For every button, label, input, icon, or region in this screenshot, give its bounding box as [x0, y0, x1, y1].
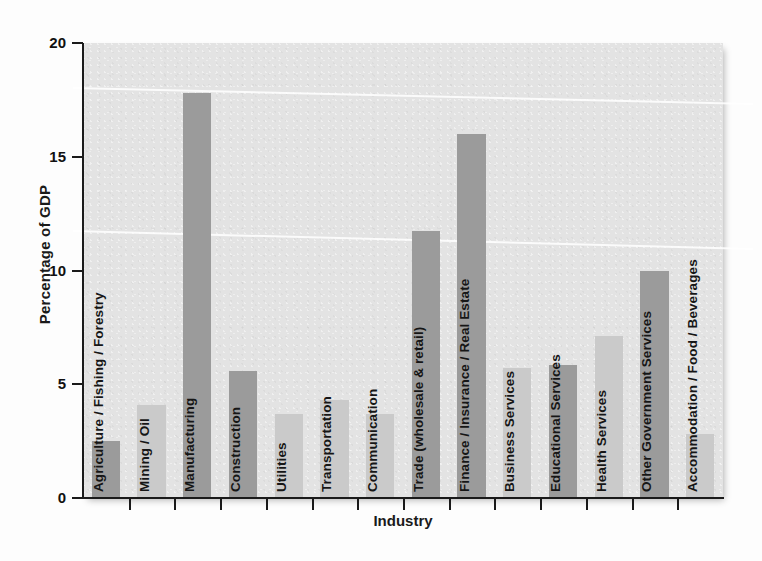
plot-area: Agriculture / Fishing / ForestryMining /… [83, 43, 723, 498]
bar-category-label: Other Government Services [639, 311, 654, 492]
bar[interactable]: Educational Services [549, 365, 577, 498]
bar-category-label: Health Services [594, 390, 609, 492]
x-axis-tick [174, 499, 176, 510]
y-axis-tick-label: 10 [30, 262, 66, 279]
bar[interactable]: Health Services [595, 336, 623, 498]
bar-category-label: Mining / Oil [137, 418, 152, 492]
bar[interactable]: Trade (wholesale & retail) [412, 231, 440, 498]
x-axis-tick [586, 499, 588, 510]
y-axis-tick [72, 42, 83, 44]
bar[interactable]: Transportation [320, 400, 348, 498]
bar-category-label: Construction [228, 407, 243, 492]
bar-category-label: Accommodation / Food / Beverages [685, 259, 700, 492]
x-axis-tick [540, 499, 542, 510]
y-axis-tick-label: 0 [30, 489, 66, 506]
bar-category-label: Manufacturing [182, 398, 197, 492]
x-axis-tick [220, 499, 222, 510]
bar-category-label: Transportation [319, 396, 334, 492]
scan-artifact-line-upper [73, 87, 753, 105]
bar[interactable]: Business Services [503, 368, 531, 498]
bar[interactable]: Agriculture / Fishing / Forestry [92, 441, 120, 498]
y-axis-tick-label: 15 [30, 148, 66, 165]
bar-category-label: Agriculture / Fishing / Forestry [91, 292, 106, 492]
bar[interactable]: Communication [366, 414, 394, 498]
bar[interactable]: Utilities [275, 414, 303, 498]
y-axis-tick [72, 156, 83, 158]
bar[interactable]: Construction [229, 371, 257, 498]
x-axis-tick [403, 499, 405, 510]
x-axis-tick [357, 499, 359, 510]
scan-noise-texture [83, 43, 723, 498]
bar[interactable]: Other Government Services [640, 271, 668, 499]
bar[interactable]: Mining / Oil [137, 405, 165, 498]
bar-category-label: Educational Services [548, 354, 563, 492]
y-axis-tick [72, 383, 83, 385]
x-axis-tick [632, 499, 634, 510]
bar-category-label: Finance / Insurance / Real Estate [457, 279, 472, 492]
bar-category-label: Trade (wholesale & retail) [411, 327, 426, 492]
x-axis-tick [449, 499, 451, 510]
x-axis-tick [266, 499, 268, 510]
y-axis-tick-label: 20 [30, 34, 66, 51]
bar-category-label: Communication [365, 389, 380, 492]
bar-category-label: Business Services [502, 371, 517, 492]
bar[interactable]: Accommodation / Food / Beverages [686, 434, 714, 498]
y-axis-tick [72, 270, 83, 272]
x-axis-tick [494, 499, 496, 510]
x-axis-tick [312, 499, 314, 510]
bar[interactable]: Finance / Insurance / Real Estate [457, 134, 485, 498]
x-axis-title: Industry [83, 512, 723, 529]
x-axis-tick [129, 499, 131, 510]
x-axis-tick [677, 499, 679, 510]
y-axis-tick-label: 5 [30, 375, 66, 392]
bar-chart: Percentage of GDP Agriculture / Fishing … [0, 0, 762, 561]
bar-category-label: Utilities [274, 442, 289, 492]
y-axis-tick [72, 497, 83, 499]
bar[interactable]: Manufacturing [183, 93, 211, 498]
